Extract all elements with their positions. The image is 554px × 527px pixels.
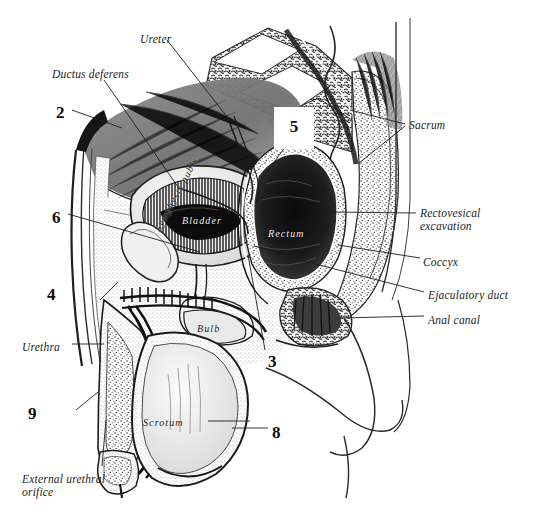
number-2: 2 <box>56 103 65 123</box>
label-rectovesical: Rectovesical excavation <box>420 207 512 233</box>
rectum <box>238 142 346 304</box>
leader-n9 <box>76 392 98 410</box>
label-external-orifice: External urethral orifice <box>22 473 114 499</box>
inline-label-rectum: Rectum <box>268 228 305 239</box>
number-6: 6 <box>52 208 61 228</box>
inline-label-bladder: Bladder <box>182 215 222 226</box>
number-3: 3 <box>268 352 277 372</box>
label-anal-canal: Anal canal <box>428 314 480 327</box>
number-8: 8 <box>272 423 281 443</box>
leader-anal-canal <box>340 316 424 318</box>
label-ductus-deferens: Ductus deferens <box>52 68 129 81</box>
label-ureter: Ureter <box>140 33 171 46</box>
label-coccyx: Coccyx <box>423 256 458 269</box>
inline-label-scrotum: Scrotum <box>143 417 184 428</box>
number-9: 9 <box>28 404 37 424</box>
figure-canvas: UreterDuctus deferensSacrumRectovesical … <box>0 0 554 527</box>
inline-label-bulb: Bulb <box>197 323 220 334</box>
number-callout-box-5: 5 <box>274 107 314 149</box>
number-5: 5 <box>274 117 314 137</box>
scrotum <box>132 332 248 486</box>
label-sacrum: Sacrum <box>409 119 445 132</box>
number-4: 4 <box>47 285 56 305</box>
label-urethra: Urethra <box>22 341 60 354</box>
label-ejaculatory-duct: Ejaculatory duct <box>428 289 508 302</box>
